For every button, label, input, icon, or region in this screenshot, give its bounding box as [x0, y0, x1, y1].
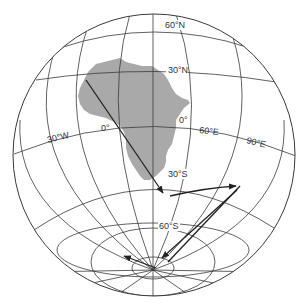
parallel-60n — [60, 32, 250, 48]
label-30w: 30°W — [46, 130, 70, 145]
label-30s: 30°S — [168, 169, 188, 179]
globe-map: 60°N 30°N 0° 30°S 60°S 30°W 0° 60°E 90°E — [0, 0, 305, 308]
wander-path-seg4 — [124, 256, 156, 268]
africa-landmass — [78, 58, 190, 180]
label-60s: 60°S — [159, 221, 179, 231]
label-90e: 90°E — [246, 135, 267, 149]
label-30n: 30°N — [168, 65, 188, 75]
label-60e: 60°E — [199, 125, 220, 137]
label-lon-0: 0° — [101, 123, 110, 133]
label-equator: 0° — [179, 115, 188, 125]
label-60n: 60°N — [165, 20, 185, 30]
